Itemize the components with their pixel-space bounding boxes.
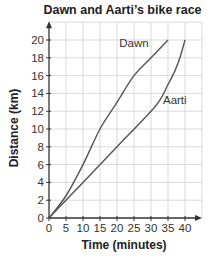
grid-lines	[49, 22, 202, 218]
series-labels: DawnAarti	[119, 37, 186, 106]
x-tick-label: 10	[77, 222, 90, 234]
y-tick-label: 6	[38, 159, 44, 171]
x-tick-label: 25	[128, 222, 141, 234]
y-tick-label: 16	[31, 70, 44, 82]
line-chart: 051015202530354002468101214161820 DawnAa…	[0, 0, 217, 262]
y-tick-label: 0	[38, 212, 44, 224]
x-tick-label: 30	[145, 222, 158, 234]
x-tick-label: 5	[63, 222, 69, 234]
y-tick-label: 12	[31, 105, 44, 117]
x-tick-label: 20	[111, 222, 124, 234]
x-tick-label: 0	[46, 222, 52, 234]
x-tick-label: 15	[94, 222, 107, 234]
y-tick-label: 8	[38, 141, 44, 153]
axis-ticks: 051015202530354002468101214161820	[31, 34, 191, 234]
y-tick-label: 2	[38, 194, 44, 206]
y-tick-label: 4	[38, 176, 45, 188]
y-tick-label: 14	[31, 87, 44, 99]
y-tick-label: 20	[31, 34, 44, 46]
x-tick-label: 40	[179, 222, 192, 234]
series-label-aarti: Aarti	[163, 94, 187, 106]
x-tick-label: 35	[162, 222, 175, 234]
y-tick-label: 18	[31, 52, 44, 64]
x-axis-arrow-icon	[195, 215, 202, 221]
y-tick-label: 10	[31, 123, 44, 135]
series-label-dawn: Dawn	[119, 37, 148, 49]
